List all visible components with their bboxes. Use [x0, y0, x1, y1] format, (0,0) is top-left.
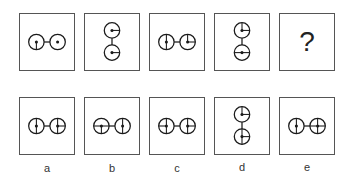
option-label-a: a: [19, 162, 75, 174]
question-panel-1: [19, 13, 75, 71]
option-b[interactable]: [84, 97, 140, 155]
option-d[interactable]: [214, 97, 270, 155]
linked-circles-figure: [215, 98, 269, 154]
option-label-b: b: [84, 162, 140, 174]
question-panel-3: [149, 13, 205, 71]
linked-circles-figure: [150, 14, 204, 70]
linked-circles-figure: [280, 98, 334, 154]
option-label-c: c: [149, 162, 205, 174]
linked-circles-figure: [85, 98, 139, 154]
option-a[interactable]: [19, 97, 75, 155]
question-mark: ?: [280, 14, 334, 70]
question-panel-4: [214, 13, 270, 71]
option-label-d: d: [214, 161, 270, 173]
question-panel-unknown: ?: [279, 13, 335, 71]
question-panel-2: [84, 13, 140, 71]
linked-circles-figure: [150, 98, 204, 154]
linked-circles-figure: [20, 98, 74, 154]
option-label-e: e: [279, 161, 335, 173]
linked-circles-figure: [20, 14, 74, 70]
option-c[interactable]: [149, 97, 205, 155]
linked-circles-figure: [85, 14, 139, 70]
linked-circles-figure: [215, 14, 269, 70]
option-e[interactable]: [279, 97, 335, 155]
